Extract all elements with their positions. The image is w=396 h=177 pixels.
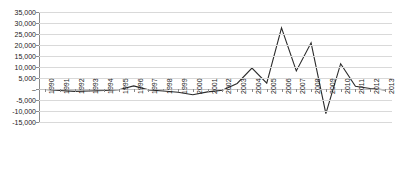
x-tick-label: 1994 — [107, 78, 114, 94]
y-tick-label: -10,000 — [12, 108, 36, 115]
y-tick-label: 15,000 — [15, 53, 36, 60]
x-tick-label: 2013 — [388, 78, 395, 94]
x-tick-label: 1996 — [137, 78, 144, 94]
y-tick-label: 30,000 — [15, 20, 36, 27]
x-tick-label: 2003 — [240, 78, 247, 94]
line-chart: 35,00030,00025,00020,00015,00010,0005,00… — [0, 0, 396, 177]
x-tick-label: 2000 — [196, 78, 203, 94]
x-tick-label: 1993 — [92, 78, 99, 94]
x-tick-label: 2009 — [329, 78, 336, 94]
x-tick-label: 2005 — [270, 78, 277, 94]
x-tick-label: 2010 — [344, 78, 351, 94]
y-axis: 35,00030,00025,00020,00015,00010,0005,00… — [0, 0, 36, 177]
y-tick-label: 5,000 — [18, 75, 36, 82]
y-tick-label: 20,000 — [15, 42, 36, 49]
x-tick-label: 2007 — [299, 78, 306, 94]
x-tick-label: 2002 — [225, 78, 232, 94]
y-tick-label: -5,000 — [16, 97, 36, 104]
y-tick-label: 35,000 — [15, 9, 36, 16]
x-tick-label: 2001 — [211, 78, 218, 94]
x-tick-label: 2004 — [255, 78, 262, 94]
x-tick-label: 1995 — [122, 78, 129, 94]
x-axis: 1990199119921993199419951996199719981999… — [39, 0, 392, 177]
x-tick-label: 1990 — [48, 78, 55, 94]
x-tick-label: 2006 — [285, 78, 292, 94]
x-tick-label: 1992 — [78, 78, 85, 94]
y-tick-label: 10,000 — [15, 64, 36, 71]
x-tick-label: 1991 — [63, 78, 70, 94]
x-tick-label: 2011 — [358, 79, 365, 94]
y-tick-label: 25,000 — [15, 31, 36, 38]
x-tick-label: 2008 — [314, 78, 321, 94]
y-tick-label: -15,000 — [12, 119, 36, 126]
x-tick-label: 2012 — [373, 78, 380, 94]
x-tick-label: 1999 — [181, 78, 188, 94]
x-tick-label: 1997 — [151, 78, 158, 94]
x-tick-label: 1998 — [166, 78, 173, 94]
